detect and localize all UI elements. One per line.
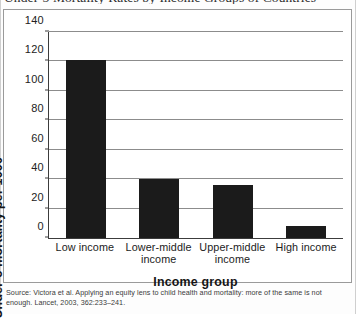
bar-slot	[123, 32, 197, 238]
x-axis-title: Income group	[48, 275, 343, 289]
bar	[213, 185, 253, 238]
bar	[139, 179, 179, 238]
plot-area: 020406080100120140	[48, 32, 343, 239]
x-axis-label: Low income	[48, 241, 122, 266]
x-axis-label: High income	[269, 241, 343, 266]
y-tick-label: 140	[25, 14, 44, 26]
bar-slot	[49, 32, 123, 238]
bars-layer	[49, 32, 343, 238]
figure-title: Under-5 Mortality Rates by Income Groups…	[4, 0, 352, 4]
y-tick-label: 20	[31, 191, 44, 203]
bar	[66, 60, 106, 238]
chart-frame: Under-5 mortality per 1000 0204060801001…	[3, 9, 352, 283]
y-tick-label: 40	[31, 161, 44, 173]
y-tick-label: 80	[31, 102, 44, 114]
x-axis-labels: Low incomeLower-middle incomeUpper-middl…	[48, 241, 343, 266]
y-tick-label: 120	[25, 43, 44, 55]
bar-slot	[270, 32, 344, 238]
x-axis-label: Lower-middle income	[122, 241, 196, 266]
y-tick-label: 100	[25, 73, 44, 85]
y-tick-label: 0	[38, 220, 44, 232]
bar-slot	[196, 32, 270, 238]
y-axis-title: Under-5 mortality per 1000	[0, 157, 5, 318]
bar	[286, 226, 326, 238]
x-axis-label: Upper-middle income	[196, 241, 270, 266]
source-note: Source: Victora et al. Applying an equit…	[6, 288, 346, 307]
y-tick-label: 60	[31, 132, 44, 144]
